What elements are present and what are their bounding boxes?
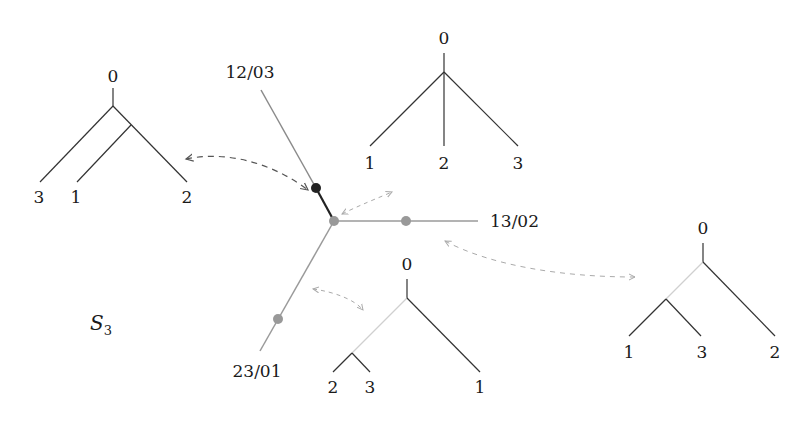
tree-space-diagram: 0 3 1 2 0 1 2 3 0 2 3 1 0 1 bbox=[0, 0, 811, 423]
ray-12-03 bbox=[261, 90, 316, 188]
tree-space-spine bbox=[260, 90, 478, 351]
tree-right-leaf: 1 bbox=[624, 342, 635, 362]
arrow-left-tree bbox=[186, 156, 308, 190]
node-13-02 bbox=[401, 216, 411, 226]
ray-label-13-02: 13/02 bbox=[490, 211, 539, 231]
tree-left-root-label: 0 bbox=[108, 66, 119, 86]
tree-top-leaf: 1 bbox=[365, 153, 376, 173]
ray-12-03-segment bbox=[316, 188, 334, 221]
tree-bottom: 0 2 3 1 bbox=[328, 254, 486, 397]
tree-top-root-label: 0 bbox=[439, 28, 450, 48]
tree-bottom-root-label: 0 bbox=[402, 254, 413, 274]
arrow-bottom-tree bbox=[313, 289, 363, 310]
node-23-01 bbox=[273, 314, 283, 324]
tree-left-leaf: 2 bbox=[182, 187, 193, 207]
node-origin bbox=[329, 216, 339, 226]
arrow-right-tree bbox=[445, 241, 635, 277]
tree-bottom-leaf: 3 bbox=[365, 377, 376, 397]
tree-top: 0 1 2 3 bbox=[365, 28, 524, 173]
ray-23-01 bbox=[260, 221, 334, 351]
arrow-top-tree bbox=[342, 192, 392, 214]
tree-bottom-leaf: 2 bbox=[328, 377, 339, 397]
tree-left-leaf: 3 bbox=[34, 187, 45, 207]
ray-label-23-01: 23/01 bbox=[233, 361, 282, 381]
tree-bottom-leaf: 1 bbox=[475, 377, 486, 397]
space-label: S3 bbox=[90, 311, 112, 338]
ray-label-12-03: 12/03 bbox=[226, 62, 275, 82]
tree-right: 0 1 3 2 bbox=[624, 218, 781, 362]
tree-left-leaf: 1 bbox=[71, 187, 82, 207]
tree-left: 0 3 1 2 bbox=[34, 66, 193, 207]
tree-right-root-label: 0 bbox=[698, 218, 709, 238]
node-black bbox=[311, 183, 321, 193]
tree-right-leaf: 2 bbox=[770, 342, 781, 362]
tree-right-leaf: 3 bbox=[697, 342, 708, 362]
tree-top-leaf: 3 bbox=[513, 153, 524, 173]
tree-top-leaf: 2 bbox=[439, 153, 450, 173]
